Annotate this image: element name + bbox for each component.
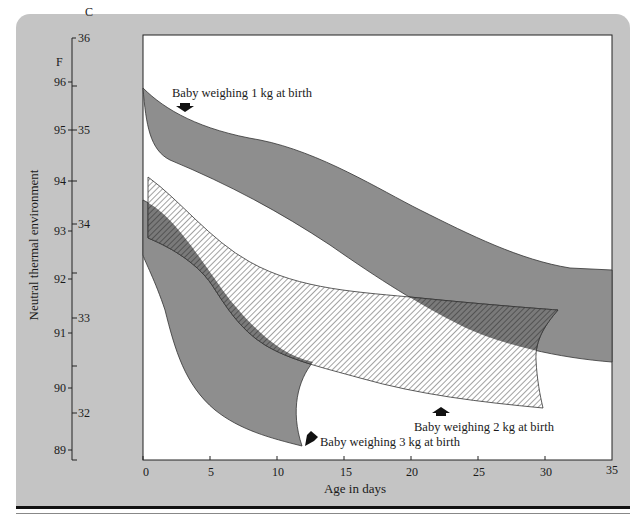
svg-text:15: 15 [340, 465, 352, 479]
svg-text:89: 89 [54, 443, 66, 457]
svg-text:32: 32 [78, 406, 90, 420]
f-unit-label: F [56, 55, 63, 69]
chart-svg: C F 96 95 94 93 92 91 90 89 36 35 34 33 … [0, 0, 642, 529]
x-axis-title: Age in days [324, 481, 386, 496]
svg-text:33: 33 [78, 311, 90, 325]
svg-text:95: 95 [54, 123, 66, 137]
svg-text:0: 0 [143, 465, 149, 479]
svg-text:25: 25 [473, 465, 485, 479]
svg-text:94: 94 [54, 174, 66, 188]
svg-text:93: 93 [54, 224, 66, 238]
svg-text:10: 10 [272, 465, 284, 479]
c-unit-label: C [85, 5, 93, 19]
svg-text:35: 35 [606, 463, 618, 477]
svg-text:30: 30 [540, 465, 552, 479]
label-3kg: Baby weighing 3 kg at birth [320, 435, 461, 449]
svg-text:92: 92 [54, 272, 66, 286]
y-axis-title: Neutral thermal environment [26, 169, 41, 320]
svg-text:36: 36 [78, 31, 90, 45]
svg-text:35: 35 [78, 123, 90, 137]
svg-text:20: 20 [406, 465, 418, 479]
svg-text:90: 90 [54, 381, 66, 395]
label-2kg: Baby weighing 2 kg at birth [414, 420, 555, 434]
svg-text:34: 34 [78, 217, 90, 231]
svg-text:91: 91 [54, 326, 66, 340]
svg-text:96: 96 [54, 75, 66, 89]
f-ticks: 96 95 94 93 92 91 90 89 [54, 75, 77, 457]
svg-text:5: 5 [208, 465, 214, 479]
c-ticks: 36 35 34 33 32 [72, 31, 90, 420]
label-1kg: Baby weighing 1 kg at birth [172, 86, 313, 100]
